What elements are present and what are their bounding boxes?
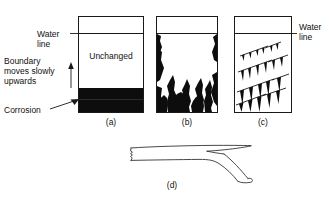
corrosion-label: Corrosion xyxy=(4,105,41,115)
specimen-neck-outer-edge xyxy=(224,154,248,179)
boundary-label-line1: Boundary xyxy=(4,56,41,66)
specimen-top-edge xyxy=(131,145,251,148)
corrosion-leader xyxy=(50,101,74,109)
panel-c: (c) xyxy=(235,17,292,128)
panel-c-caption: (c) xyxy=(258,117,268,127)
boundary-label-line3: upwards xyxy=(4,76,36,86)
boundary-label-line2: moves slowly xyxy=(4,66,55,76)
boundary-up-arrow-icon xyxy=(68,62,74,88)
figure-canvas: Unchanged (a) xyxy=(0,0,329,211)
specimen-bottom-edge xyxy=(131,159,238,181)
panel-d: (d) xyxy=(131,145,253,190)
panel-b: (b) xyxy=(157,17,218,128)
water-line-left-label-line2: line xyxy=(37,39,51,49)
annotation-water-line-right: Water line xyxy=(292,22,322,42)
vessel-a-corrosion-layer xyxy=(79,88,143,112)
specimen-fracture-lip xyxy=(207,146,251,151)
water-line-right-label-line1: Water xyxy=(299,22,322,32)
specimen-fracture-lip-return xyxy=(207,151,224,154)
panel-a-interior-label: Unchanged xyxy=(89,51,133,61)
specimen-left-end xyxy=(131,148,133,160)
panel-b-caption: (b) xyxy=(182,117,193,127)
annotation-boundary: Boundary moves slowly upwards xyxy=(4,56,74,88)
water-line-right-label-line2: line xyxy=(299,32,313,42)
panel-d-caption: (d) xyxy=(167,180,178,190)
annotation-corrosion: Corrosion xyxy=(4,99,79,115)
corrosion-figure: Unchanged (a) xyxy=(0,0,329,211)
panel-a-caption: (a) xyxy=(106,117,117,127)
water-line-left-label-line1: Water xyxy=(37,29,60,39)
specimen-tail-tip xyxy=(238,178,253,183)
